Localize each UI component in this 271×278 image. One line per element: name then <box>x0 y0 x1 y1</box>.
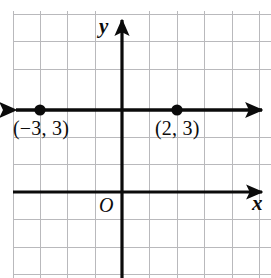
origin-label: O <box>99 195 113 215</box>
coordinate-plane-svg <box>0 0 271 278</box>
point-label-right: (2, 3) <box>155 118 200 138</box>
y-axis-label: y <box>99 16 108 37</box>
x-axis-label: x <box>252 193 263 214</box>
point-marker-right <box>171 104 182 115</box>
point-marker-left <box>34 104 45 115</box>
graph-figure: y x O (−3, 3) (2, 3) <box>0 0 271 278</box>
point-label-left: (−3, 3) <box>13 118 69 138</box>
